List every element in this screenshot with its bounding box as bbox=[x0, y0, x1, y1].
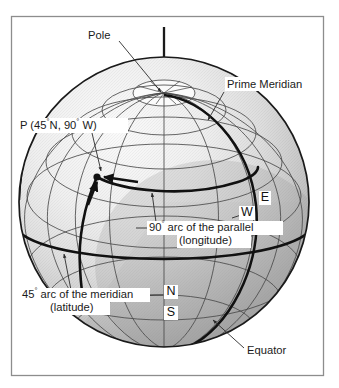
point-p-label: P (45°N, 90° W) bbox=[20, 117, 97, 131]
pole-label: Pole bbox=[88, 29, 110, 41]
point-p-prefix: P (45 bbox=[20, 119, 47, 131]
equator-label: Equator bbox=[247, 344, 286, 356]
north-label: N bbox=[166, 284, 175, 298]
point-p-marker bbox=[93, 173, 100, 180]
globe-diagram-figure: Pole Prime Meridian P (45°N, 90° W) E W … bbox=[0, 0, 339, 388]
arc-meridian-line2: (latitude) bbox=[50, 301, 94, 313]
point-p-mid: N, 90 bbox=[50, 119, 77, 131]
east-label: E bbox=[261, 190, 269, 204]
south-label: S bbox=[167, 305, 175, 319]
arc-meridian-text: arc of the meridian bbox=[38, 288, 134, 300]
west-label: W bbox=[241, 205, 253, 219]
arc-parallel-value: 90 bbox=[149, 221, 161, 233]
prime-meridian-label: Prime Meridian bbox=[227, 78, 302, 90]
arc-meridian-value: 45 bbox=[22, 288, 34, 300]
arc-parallel-line1: 90° arc of the parallel bbox=[149, 219, 253, 233]
point-p-suffix: W) bbox=[79, 119, 97, 131]
globe-diagram-svg: Pole Prime Meridian P (45°N, 90° W) E W … bbox=[0, 0, 339, 388]
arc-meridian-line1: 45° arc of the meridian bbox=[22, 286, 133, 300]
arc-parallel-text: arc of the parallel bbox=[165, 221, 254, 233]
arc-parallel-line2: (longitude) bbox=[179, 234, 232, 246]
